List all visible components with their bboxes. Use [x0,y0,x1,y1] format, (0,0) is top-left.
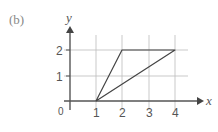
x-tick-4: 4 [172,106,179,120]
x-tick-3: 3 [146,106,153,120]
x-tick-2: 2 [119,106,126,120]
y-tick-1: 1 [56,70,63,84]
gridlines [64,35,188,110]
axes [64,33,198,110]
data-line [96,50,175,101]
y-axis-label: y [64,10,72,25]
chart: y x 2 1 0 1 2 3 4 [0,0,218,132]
x-axis-arrow-icon [197,97,204,105]
x-axis-label: x [205,93,212,108]
origin-label: 0 [58,106,64,117]
y-axis-arrow-icon [66,26,74,33]
y-tick-2: 2 [56,44,63,58]
x-tick-1: 1 [93,106,100,120]
